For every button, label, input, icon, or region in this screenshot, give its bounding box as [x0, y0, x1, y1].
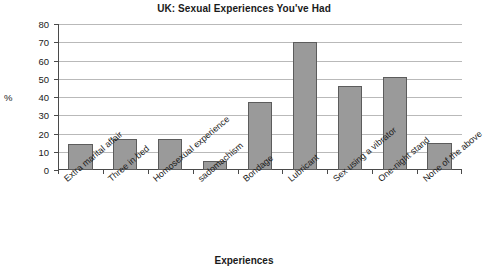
x-tick-mark-8 [417, 170, 418, 174]
bar-5 [293, 42, 317, 170]
y-tick-label-60: 60 [38, 55, 49, 66]
y-tick-label-80: 80 [38, 19, 49, 30]
y-tick-label-20: 20 [38, 128, 49, 139]
chart-title: UK: Sexual Experiences You've Had [0, 3, 488, 14]
y-tick-label-50: 50 [38, 73, 49, 84]
y-tick-label-70: 70 [38, 37, 49, 48]
y-axis-title: % [4, 92, 12, 103]
x-axis-title: Experiences [0, 255, 488, 266]
x-tick-mark-1 [103, 170, 104, 174]
x-tick-mark-end [461, 170, 462, 174]
x-tick-mark-7 [372, 170, 373, 174]
x-tick-mark-2 [148, 170, 149, 174]
y-tick-label-10: 10 [38, 146, 49, 157]
x-tick-mark-0 [58, 170, 59, 174]
x-axis-category-labels: Extra marital affairThree in bedHomosexu… [58, 176, 488, 256]
x-tick-mark-6 [327, 170, 328, 174]
y-tick-label-40: 40 [38, 92, 49, 103]
x-tick-mark-5 [282, 170, 283, 174]
x-tick-mark-3 [193, 170, 194, 174]
y-tick-label-0: 0 [44, 165, 49, 176]
bar-chart: UK: Sexual Experiences You've Had % 0102… [0, 0, 488, 275]
y-tick-label-30: 30 [38, 110, 49, 121]
y-axis: % 01020304050607080 [0, 24, 58, 170]
bars-layer [58, 24, 462, 170]
x-tick-mark-4 [238, 170, 239, 174]
